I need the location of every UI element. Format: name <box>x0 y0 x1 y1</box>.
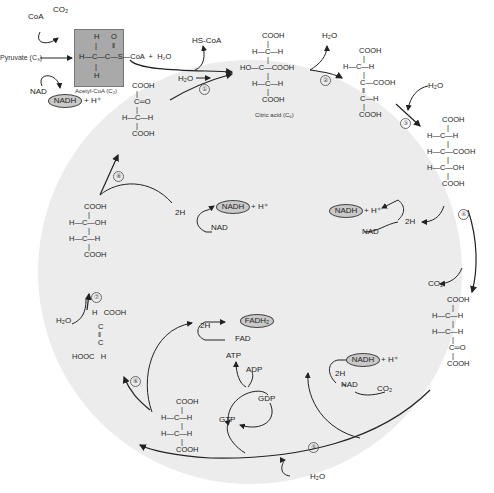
two-h-step5: 2H <box>335 370 345 378</box>
co2-step4: CO₂ <box>428 280 443 288</box>
hs-coa-label: HS-CoA <box>192 37 221 45</box>
citric-acid-label: Citric acid (C₆) <box>255 112 294 118</box>
krebs-cycle-diagram: CoA CO₂ Pyruvate (C₃) NAD NADH + H⁺ H O … <box>0 0 494 493</box>
coa-label: CoA <box>28 13 44 21</box>
nadh-oval-step8: NADH <box>216 200 250 214</box>
h2o-step1-label: H₂O <box>178 75 193 83</box>
gtp-label: GTP <box>219 416 235 424</box>
oxaloacetate: COOH | C═O | H—C—H | COOH <box>122 82 172 138</box>
step-5-marker: ⑤ <box>308 442 319 453</box>
h-plus-step8: + H⁺ <box>251 203 268 211</box>
nad-step4: NAD <box>362 228 379 236</box>
h2o-step3-label: H₂O <box>428 82 443 90</box>
adp-label: ADP <box>246 366 262 374</box>
citric-acid: COOH | H—C—H | HO—C—COOH | H—C—H | COOH <box>240 32 310 112</box>
atp-label: ATP <box>226 352 241 360</box>
step-4-marker: ④ <box>458 209 469 220</box>
step-1-marker: ① <box>199 84 210 95</box>
step-2-marker: ② <box>320 75 331 86</box>
nad-step8: NAD <box>211 224 228 232</box>
two-h-step6: 2H <box>200 322 210 330</box>
nadh-oval-step4: NADH <box>329 204 363 218</box>
alpha-ketoglutarate: COOH | H—C—H | H—C—H | C═O | COOH <box>432 296 494 376</box>
h-plus-step5: + H⁺ <box>381 356 398 364</box>
isocitrate: COOH | H—C—H | H—C—COOH | H—C—OH | COOH <box>425 116 494 196</box>
co2-label: CO₂ <box>53 6 68 14</box>
pyruvate-label: Pyruvate (C₃) <box>0 54 42 61</box>
two-h-step8: 2H <box>175 209 185 217</box>
gdp-label: GDP <box>258 395 275 403</box>
two-h-step4: 2H <box>405 218 415 226</box>
h-plus-label: + H⁺ <box>84 97 101 105</box>
step-6-marker: ⑥ <box>130 376 141 387</box>
fad-label: FAD <box>235 335 251 343</box>
cis-aconitate: COOH | H—C—H | C—COOH ‖ C—H | COOH <box>343 47 408 127</box>
nad-label: NAD <box>30 88 47 96</box>
h2o-step5: H₂O <box>310 473 325 481</box>
co2-step5: CO₂ <box>377 385 392 393</box>
fumarate: H COOH C ‖ C HOOC H <box>72 309 132 359</box>
malate: COOH | H—C—OH | H—C—H | COOH <box>67 203 127 267</box>
fadh2-oval: FADH₂ <box>240 314 274 328</box>
nadh-oval-step5: NADH <box>346 353 380 367</box>
step-8-marker: ⑧ <box>113 171 124 182</box>
nad-step5: NAD <box>341 381 358 389</box>
acetyl-coa-label: Acetyl-CoA (C₂) <box>75 88 117 94</box>
nadh-oval: NADH <box>48 94 82 108</box>
h2o-step7: H₂O <box>56 317 71 325</box>
h2o-step2-label: H₂O <box>322 32 337 40</box>
succinate: COOH | H—C—H | H—C—H | COOH <box>160 398 220 462</box>
h-plus-step4: + H⁺ <box>364 207 381 215</box>
step-7-marker: ⑦ <box>91 292 102 303</box>
